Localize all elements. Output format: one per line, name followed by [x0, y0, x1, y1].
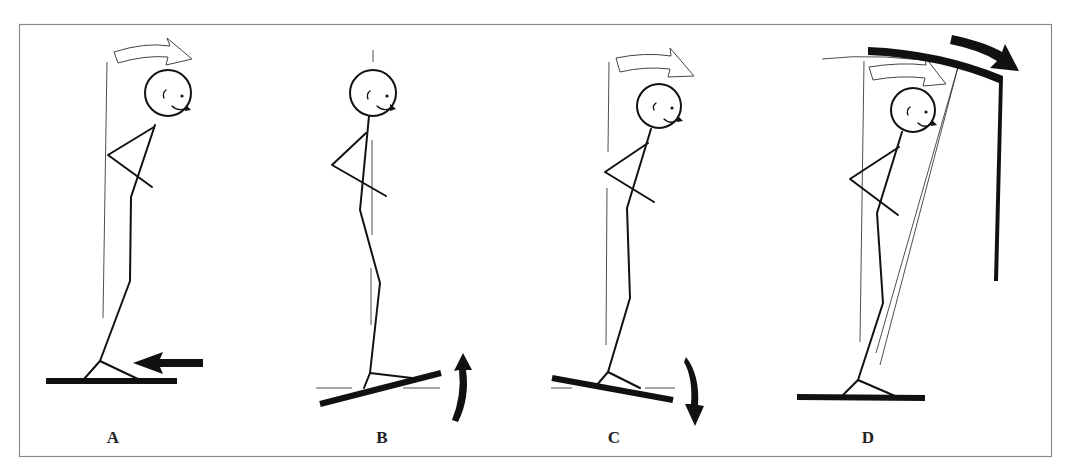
- vertical-reference-line: [103, 62, 107, 318]
- platform-rotation-down-arrow-icon: [684, 357, 704, 426]
- vertical-reference-line: [608, 62, 609, 152]
- panel-label-d: D: [862, 428, 874, 448]
- support-platform: [320, 373, 441, 404]
- panel-a: [46, 38, 203, 381]
- nose: [677, 116, 683, 122]
- eye-dot: [385, 94, 388, 97]
- foot: [843, 380, 895, 396]
- vertical-reference-line: [860, 61, 864, 342]
- panel-b: [316, 50, 472, 422]
- foot: [84, 361, 140, 380]
- platform-rotation-up-arrow-icon: [452, 353, 472, 422]
- nose: [931, 120, 937, 126]
- panel-label-c: C: [608, 428, 620, 448]
- panel-label-a: A: [107, 428, 119, 448]
- diagram: A B C D: [0, 0, 1067, 466]
- arm: [605, 143, 654, 202]
- head-rotation-arrow-icon: [114, 38, 192, 65]
- eye-dot: [670, 106, 673, 109]
- vertical-reference-line: [606, 188, 607, 345]
- diagram-canvas: [0, 0, 1067, 466]
- head-rotation-arrow-icon: [616, 48, 694, 77]
- arm: [108, 127, 154, 187]
- eye-dot: [180, 94, 183, 97]
- body-line: [360, 116, 380, 373]
- support-platform: [552, 378, 673, 400]
- eye-dot: [924, 110, 927, 113]
- panel-d: [797, 35, 1019, 398]
- panel-c: [551, 48, 704, 426]
- platform-translation-arrow-icon: [133, 352, 203, 374]
- arm: [332, 133, 386, 196]
- panel-label-b: B: [376, 428, 387, 448]
- body-line: [100, 125, 155, 361]
- arm: [850, 147, 899, 215]
- support-platform: [797, 397, 925, 398]
